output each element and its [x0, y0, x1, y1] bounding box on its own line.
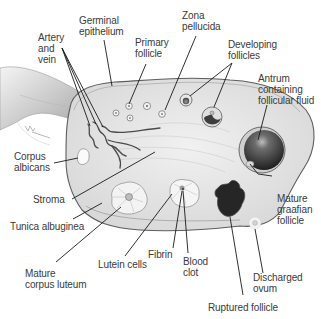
- label-fibrin: Fibrin: [148, 249, 172, 260]
- label-tunica-albuginea: Tunica albuginea: [10, 221, 84, 232]
- label-germinal-epithelium: Germinal epithelium: [79, 15, 124, 37]
- label-blood-clot: Blood clot: [183, 256, 208, 278]
- label-mature-graafian-follicle: Mature graafian follicle: [277, 193, 312, 226]
- graafian-follicle: [239, 127, 285, 173]
- label-antrum: Antrum containing follicular fluid: [258, 73, 314, 106]
- corpus-hemorrhagicum: [170, 179, 199, 207]
- discharged-ovum: [249, 217, 261, 229]
- label-mature-corpus-luteum: Mature corpus luteum: [25, 268, 87, 290]
- label-zona-pellucida: Zona pellucida: [182, 10, 221, 32]
- label-developing-follicles: Developing follicles: [228, 39, 277, 61]
- label-corpus-albicans: Corpus albicans: [14, 151, 50, 173]
- corpus-albicans: [77, 149, 89, 165]
- label-ruptured-follicle: Ruptured follicle: [208, 302, 278, 313]
- label-primary-follicle: Primary follicle: [135, 37, 169, 59]
- artist-signature: [25, 126, 50, 138]
- corpus-luteum: [112, 182, 148, 214]
- label-artery-and-vein: Artery and vein: [38, 32, 64, 65]
- label-lutein-cells: Lutein cells: [98, 259, 147, 270]
- label-discharged-ovum: Discharged ovum: [253, 272, 303, 294]
- label-stroma: Stroma: [33, 194, 65, 205]
